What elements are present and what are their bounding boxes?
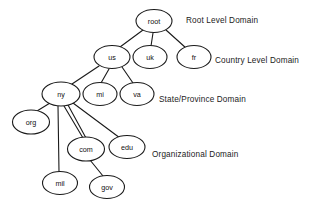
edge-ny-to-org [37,103,50,111]
node-uk[interactable]: uk [133,46,167,69]
node-label-org: org [26,118,36,127]
node-label-va: va [133,90,141,99]
node-label-ny: ny [57,90,65,99]
node-ny[interactable]: ny [42,82,80,106]
edge-ny-to-com2 [68,105,86,138]
edge-ny-to-mil [58,106,59,172]
node-label-gov: gov [101,183,113,192]
node-com[interactable]: com [68,137,105,161]
node-label-fr: fr [192,53,197,62]
node-label-us: us [108,53,116,62]
tier-label-org-level: Organizational Domain [152,150,239,159]
node-mi[interactable]: mi [83,83,117,106]
node-label-edu: edu [121,143,133,152]
edge-root-to-fr [166,30,186,48]
node-gov[interactable]: gov [90,176,125,199]
dns-hierarchy-diagram: rootusukfrnymivaorgcomedumilgov Root Lev… [0,0,321,209]
edge-com-to-gov [90,160,103,176]
node-label-mil: mil [55,179,65,188]
node-org[interactable]: org [13,110,50,134]
node-va[interactable]: va [120,83,154,106]
tier-label-country-level: Country Level Domain [215,56,299,65]
node-label-mi: mi [96,90,104,99]
edge-us-to-ny [72,66,99,84]
node-mil[interactable]: mil [43,172,78,195]
node-group: rootusukfrnymivaorgcomedumilgov [13,10,212,199]
node-root[interactable]: root [136,10,172,33]
diagram-canvas: rootusukfrnymivaorgcomedumilgov Root Lev… [0,0,321,209]
edge-us-to-va [122,67,133,83]
tier-label-root-level: Root Level Domain [186,16,258,25]
tier-label-state-level: State/Province Domain [159,95,246,104]
node-label-root: root [148,17,160,26]
edge-root-to-uk [151,33,153,46]
edge-ny-to-com [64,106,83,138]
node-fr[interactable]: fr [177,46,211,69]
node-label-com: com [79,145,93,154]
node-us[interactable]: us [94,46,130,69]
node-label-uk: uk [146,53,154,62]
node-edu[interactable]: edu [109,136,145,159]
edge-root-to-us [120,30,143,47]
edge-us-to-mi [101,69,109,83]
